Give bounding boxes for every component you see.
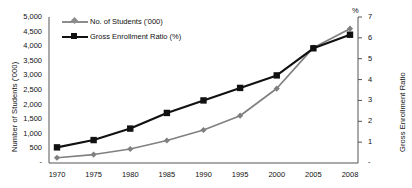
data-point-marker-square	[164, 110, 170, 116]
data-point-marker-square	[274, 72, 280, 78]
y-axis-right-zero-dash: -	[368, 157, 382, 166]
data-point-marker-diamond	[91, 151, 97, 157]
legend-label-students: No. of Students ('000)	[90, 17, 163, 26]
line-chart: Number of Students ('000) Gross Enrollme…	[0, 0, 412, 188]
y-axis-left-tick-label: 5,000	[12, 12, 42, 21]
legend-label-ger: Gross Enrollment Ratio (%)	[90, 32, 181, 41]
data-point-marker-diamond	[164, 137, 170, 143]
x-axis-tick-label: 1995	[223, 170, 257, 179]
y-axis-left-tick-label: 4,500	[12, 27, 42, 36]
y-axis-right-tick-label: 1	[368, 137, 382, 146]
y-axis-left-tick-label: 1,000	[12, 129, 42, 138]
x-axis-tick-label: 2008	[333, 170, 367, 179]
data-point-marker-square	[237, 85, 243, 91]
data-point-marker-square	[200, 97, 206, 103]
y-axis-left-tick-label: 3,500	[12, 56, 42, 65]
y-axis-left-tick-label: 2,000	[12, 100, 42, 109]
data-point-marker-diamond	[200, 127, 206, 133]
y-axis-left-tick-label: 1,500	[12, 114, 42, 123]
data-point-marker-square	[310, 45, 316, 51]
legend-swatch-students-icon	[62, 17, 88, 26]
y-axis-left-tick-label: 3,000	[12, 70, 42, 79]
legend-item-students: No. of Students ('000)	[62, 17, 163, 26]
y-axis-left-tick-label: 2,500	[12, 85, 42, 94]
data-point-marker-square	[127, 125, 133, 131]
plot-area	[0, 0, 412, 188]
data-point-marker-square	[54, 144, 60, 150]
data-point-marker-diamond	[347, 26, 353, 32]
y-axis-right-tick-label: 7	[368, 12, 382, 21]
x-axis-tick-label: 1975	[77, 170, 111, 179]
data-point-marker-square	[90, 137, 96, 143]
x-axis-tick-label: 1980	[113, 170, 147, 179]
x-axis-tick-label: 2000	[260, 170, 294, 179]
legend-item-gross-enrollment-ratio: Gross Enrollment Ratio (%)	[62, 32, 181, 41]
percent-symbol: %	[352, 6, 359, 15]
y-axis-right-tick-label: 2	[368, 116, 382, 125]
x-axis-tick-label: 2005	[296, 170, 330, 179]
x-axis-tick-label: 1990	[187, 170, 221, 179]
y-axis-left-zero-dash: -	[12, 157, 42, 166]
x-axis-tick-label: 1985	[150, 170, 184, 179]
x-axis-tick-label: 1970	[40, 170, 74, 179]
y-axis-right-tick-label: 5	[368, 54, 382, 63]
y-axis-right-tick-label: 3	[368, 95, 382, 104]
data-point-marker-diamond	[54, 155, 60, 161]
y-axis-right-tick-label: 6	[368, 33, 382, 42]
data-point-marker-diamond	[127, 146, 133, 152]
y-axis-right-title: Gross Enrollment Ratio	[398, 72, 407, 152]
data-point-marker-square	[347, 32, 353, 38]
y-axis-left-tick-label: 500	[12, 143, 42, 152]
legend-swatch-ger-icon	[62, 32, 88, 41]
y-axis-left-tick-label: 4,000	[12, 41, 42, 50]
y-axis-right-tick-label: 4	[368, 75, 382, 84]
